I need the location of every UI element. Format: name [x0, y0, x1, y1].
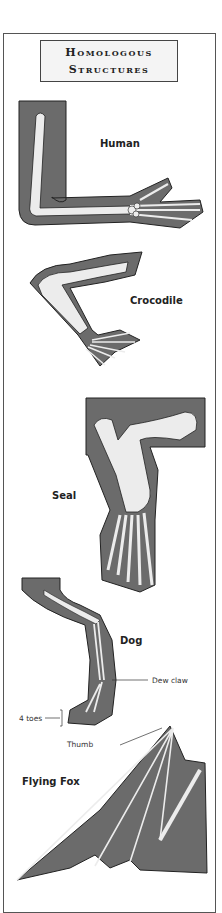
annotation-thumb: Thumb: [67, 740, 93, 749]
seal-limb: [86, 398, 205, 592]
human-limb: [19, 101, 203, 228]
label-crocodile: Crocodile: [130, 295, 183, 306]
annotation-four-toes: 4 toes: [19, 714, 42, 723]
crocodile-limb: [30, 252, 142, 366]
label-flying-fox: Flying Fox: [22, 776, 80, 787]
annotation-dew-claw: Dew claw: [152, 676, 188, 685]
flying-fox-limb: [17, 726, 207, 880]
label-seal: Seal: [52, 490, 76, 501]
label-human: Human: [100, 138, 140, 149]
dog-limb: [22, 578, 148, 726]
label-dog: Dog: [120, 635, 142, 646]
